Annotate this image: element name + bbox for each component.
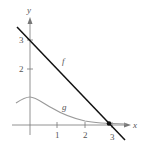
intersection-point — [107, 121, 112, 126]
x-tick-label-2: 2 — [83, 130, 88, 140]
y-tick-label-3: 3 — [19, 35, 24, 45]
graph: x y 1 2 3 2 3 g f — [0, 0, 143, 148]
x-tick-label-1: 1 — [55, 130, 60, 140]
curve-g — [16, 97, 126, 124]
x-tick-label-3: 3 — [110, 132, 115, 142]
line-f-label: f — [62, 56, 66, 66]
y-axis-arrow-icon — [28, 17, 33, 24]
y-axis-label: y — [26, 5, 31, 15]
x-axis-arrow-icon — [124, 123, 131, 128]
curve-g-label: g — [62, 102, 67, 112]
x-axis-label: x — [132, 120, 137, 130]
y-tick-label-2: 2 — [19, 64, 24, 74]
